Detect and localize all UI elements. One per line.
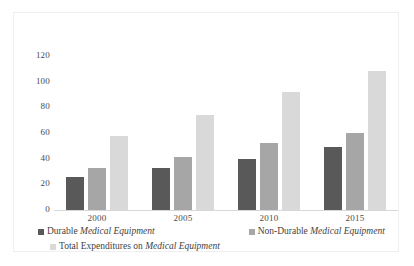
bar-durable-2000: [66, 177, 84, 210]
legend-swatch-icon: [38, 229, 44, 235]
x-axis-tick: 2015: [320, 213, 390, 223]
bar-durable-2015: [324, 147, 342, 210]
y-axis-tick: 100: [20, 77, 50, 86]
legend-label-prefix: Durable: [47, 226, 80, 236]
chart-frame: 120 100 80 60 40 20 0: [13, 12, 399, 252]
bar-durable-2005: [152, 168, 170, 210]
bar-nondurable-2010: [260, 143, 278, 210]
legend-item-total: Total Expenditures on Medical Equipment: [50, 241, 220, 252]
bar-nondurable-2000: [88, 168, 106, 210]
bar-group: [66, 56, 128, 210]
legend-label-durable: Durable Medical Equipment: [47, 226, 155, 237]
legend-item-nondurable: Non-Durable Medical Equipment: [249, 226, 385, 237]
bar-group: [324, 56, 386, 210]
bar-total-2005: [196, 115, 214, 210]
bar-nondurable-2015: [346, 133, 364, 210]
legend-swatch-icon: [50, 244, 56, 250]
y-axis-tick: 60: [20, 128, 50, 137]
y-axis-tick: 120: [20, 51, 50, 60]
legend-item-durable: Durable Medical Equipment: [38, 226, 155, 237]
legend-label-emphasis: Medical Equipment: [145, 241, 220, 251]
legend-label-total: Total Expenditures on Medical Equipment: [59, 241, 220, 252]
bar-group: [152, 56, 214, 210]
legend-label-prefix: Total Expenditures on: [59, 241, 145, 251]
x-axis-tick: 2000: [62, 213, 132, 223]
y-axis-tick: 0: [20, 205, 50, 214]
y-axis-tick: 20: [20, 179, 50, 188]
y-axis-tick: 40: [20, 154, 50, 163]
bar-nondurable-2005: [174, 157, 192, 210]
chart-legend: Durable Medical Equipment Non-Durable Me…: [38, 226, 404, 256]
bar-total-2010: [282, 92, 300, 210]
bar-group: [238, 56, 300, 210]
bar-total-2000: [110, 136, 128, 210]
legend-row: Total Expenditures on Medical Equipment: [38, 241, 404, 256]
legend-label-prefix: Non-Durable: [258, 226, 311, 236]
x-axis-tick: 2010: [234, 213, 304, 223]
legend-row: Durable Medical Equipment Non-Durable Me…: [38, 226, 404, 241]
y-axis-tick: 80: [20, 102, 50, 111]
legend-swatch-icon: [249, 229, 255, 235]
bar-total-2015: [368, 71, 386, 210]
legend-label-emphasis: Medical Equipment: [80, 226, 155, 236]
legend-label-nondurable: Non-Durable Medical Equipment: [258, 226, 385, 237]
plot-area: 120 100 80 60 40 20 0: [54, 56, 398, 210]
bars-layer: [54, 56, 398, 210]
bar-durable-2010: [238, 159, 256, 210]
legend-label-emphasis: Medical Equipment: [310, 226, 385, 236]
x-axis-tick: 2005: [148, 213, 218, 223]
x-axis: 2000 2005 2010 2015: [54, 213, 398, 223]
x-axis-line: [54, 210, 398, 211]
